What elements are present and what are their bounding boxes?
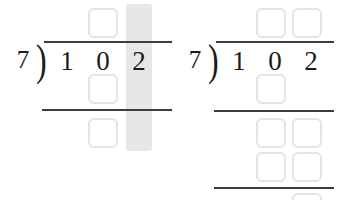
division-panel-step-two: 7 ) 1 0 2 bbox=[172, 0, 344, 200]
work-box-remainder-1-tens[interactable] bbox=[256, 118, 286, 148]
subtraction-line-2 bbox=[214, 187, 334, 189]
divisor-digit: 7 bbox=[182, 46, 208, 73]
work-box-partial-product-1[interactable] bbox=[256, 74, 286, 104]
work-box-partial-product-2-ones[interactable] bbox=[292, 152, 322, 182]
work-box-partial-product-1[interactable] bbox=[88, 74, 118, 104]
quotient-box-ones[interactable] bbox=[292, 8, 322, 38]
division-bracket-icon: ) bbox=[36, 38, 47, 83]
dividend-digit-tens: 0 bbox=[262, 48, 288, 75]
work-box-remainder-1[interactable] bbox=[88, 118, 118, 148]
work-box-remainder-1-ones[interactable] bbox=[292, 118, 322, 148]
divisor-digit: 7 bbox=[10, 46, 36, 73]
subtraction-line-1 bbox=[214, 110, 334, 112]
work-box-final-remainder[interactable] bbox=[292, 193, 322, 200]
dividend-digit-ones: 2 bbox=[298, 48, 324, 75]
division-bracket-icon: ) bbox=[208, 38, 219, 83]
work-box-partial-product-2-tens[interactable] bbox=[256, 152, 286, 182]
vinculum-rule bbox=[44, 41, 172, 43]
quotient-box-tens[interactable] bbox=[256, 8, 286, 38]
dividend-digit-ones: 2 bbox=[126, 48, 152, 75]
dividend-digit-tens: 0 bbox=[90, 48, 116, 75]
division-panel-step-one: 7 ) 1 0 2 bbox=[0, 0, 172, 200]
dividend-digit-hundreds: 1 bbox=[54, 48, 80, 75]
dividend-digit-hundreds: 1 bbox=[226, 48, 252, 75]
subtraction-line-1 bbox=[42, 109, 172, 111]
vinculum-rule bbox=[216, 41, 334, 43]
quotient-box-tens[interactable] bbox=[88, 8, 118, 38]
long-division-worksheet: 7 ) 1 0 2 7 ) 1 0 2 bbox=[0, 0, 344, 200]
ones-column-highlight bbox=[126, 4, 152, 151]
